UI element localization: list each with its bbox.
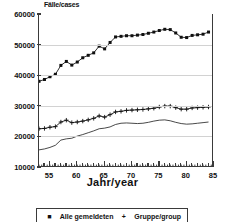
x-tick-mark [197,163,198,167]
x-tick-mark [169,163,170,167]
data-point-marker [102,115,106,119]
data-point-marker [39,80,41,83]
data-point-marker [130,34,133,37]
x-tick-mark [136,163,137,167]
data-point-marker [119,109,123,113]
x-tick-mark [54,163,55,167]
data-point-marker [65,60,68,63]
data-point-marker [81,56,84,59]
data-point-marker [97,114,101,118]
data-point-marker [81,119,85,123]
data-point-marker [39,127,41,131]
data-point-marker [92,51,95,54]
data-point-marker [87,54,90,57]
x-tick-mark [87,163,88,167]
x-tick-mark [164,163,165,167]
data-point-marker [76,61,79,64]
y-tick-mark [37,44,41,45]
x-tick-mark [158,161,159,167]
data-point-marker [130,108,134,112]
data-point-marker [141,107,145,111]
x-tick-mark [93,163,94,167]
data-point-marker [59,64,62,67]
data-point-marker [180,36,183,39]
legend-marker-plus-icon: + [118,213,131,220]
data-point-marker [113,110,117,114]
y-tick-label: 50000 [0,40,35,49]
data-point-marker [86,118,90,122]
x-tick-mark [120,163,121,167]
data-point-marker [158,29,161,32]
data-point-marker [120,35,123,38]
gridline-50000 [39,45,212,46]
y-tick-mark [37,75,41,76]
x-tick-mark [180,163,181,167]
x-axis-title: Jahr/year [0,176,225,188]
x-tick-mark [131,161,132,167]
x-tick-mark [65,163,66,167]
data-point-marker [43,78,46,81]
x-tick-mark [202,163,203,167]
y-tick-mark [37,105,41,106]
y-tick-label: 10000 [0,163,35,172]
x-tick-mark [175,163,176,167]
data-point-marker [191,34,194,37]
x-tick-mark [208,163,209,167]
data-point-marker [103,47,106,50]
y-tick-label: 30000 [0,101,35,110]
x-tick-mark [49,161,50,167]
x-tick-mark [109,163,110,167]
data-point-marker [108,112,112,116]
data-point-marker [174,31,177,34]
x-tick-mark [82,163,83,167]
data-point-marker [124,108,128,112]
data-point-marker [135,108,139,112]
x-tick-mark [38,163,39,167]
x-tick-mark [104,161,105,167]
data-point-marker [75,120,79,124]
data-point-marker [64,118,68,122]
series-line [39,120,209,150]
gridline-20000 [39,136,212,137]
data-point-marker [70,120,74,124]
series-layer [39,14,212,166]
x-tick-mark [126,163,127,167]
x-tick-mark [98,163,99,167]
legend-item: ■ Alle gemeldeten + Gruppe/group [37,209,187,220]
y-tick-label: 20000 [0,132,35,141]
data-point-marker [196,33,199,36]
legend-label: Alle gemeldeten [60,213,114,220]
legend-marker-square-icon: ■ [43,213,56,220]
plot-area [38,14,213,167]
x-tick-mark [153,163,154,167]
data-point-marker [48,125,52,129]
plot-inner [39,14,212,166]
data-point-marker [184,107,188,111]
x-tick-mark [60,163,61,167]
data-point-marker [179,107,183,111]
data-point-marker [147,32,150,35]
data-point-marker [169,28,172,31]
data-point-marker [202,33,205,36]
x-tick-mark [115,163,116,167]
y-tick-mark [37,13,41,14]
x-tick-mark [147,163,148,167]
x-tick-mark [76,161,77,167]
data-point-marker [152,31,155,34]
data-point-marker [42,126,46,130]
y-tick-mark [37,136,41,137]
y-axis-title: Fälle/cases [44,1,79,8]
y-tick-label: 40000 [0,71,35,80]
data-point-marker [91,116,95,120]
data-point-marker [185,36,188,39]
x-tick-mark [71,163,72,167]
axis-tick-glyph [210,165,212,166]
y-tick-label: 60000 [0,10,35,19]
data-point-marker [207,31,210,34]
data-point-marker [114,35,117,38]
x-tick-mark [142,163,143,167]
x-tick-mark [186,161,187,167]
data-point-marker [136,34,139,37]
gridline-40000 [39,75,212,76]
data-point-marker [125,34,128,37]
